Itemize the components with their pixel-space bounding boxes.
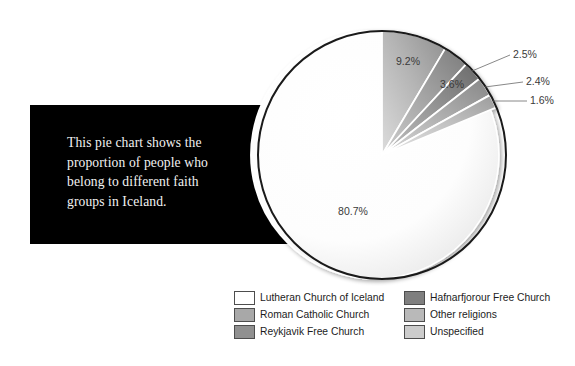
pie-label-1-6: 1.6%	[530, 94, 554, 106]
legend-swatch-icon	[404, 291, 425, 305]
pie-slice-hafnarfjorour-free-church	[382, 64, 479, 155]
legend-item-label: Reykjavik Free Church	[260, 325, 364, 339]
legend-item-label: Hafnarfjorour Free Church	[430, 291, 550, 305]
legend-item-label: Unspecified	[430, 325, 484, 339]
pie-chart-figure: This pie chart shows the proportion of p…	[0, 0, 575, 366]
legend-item-label: Lutheran Church of Iceland	[260, 291, 384, 305]
legend-item-reykjavik-free-church: Reykjavik Free Church	[234, 324, 404, 340]
legend-item-lutheran-church-of-iceland: Lutheran Church of Iceland	[234, 290, 404, 306]
legend-swatch-icon	[234, 308, 255, 322]
pie-slice-reykjavik-free-church	[382, 48, 466, 155]
legend-swatch-icon	[404, 325, 425, 339]
pie-slice-unspecified	[382, 95, 496, 155]
legend-swatch-icon	[404, 308, 425, 322]
legend-item-unspecified: Unspecified	[404, 324, 554, 340]
legend-item-hafnarfjorour-free-church: Hafnarfjorour Free Church	[404, 290, 554, 306]
pie-label-9-2: 9.2%	[396, 55, 420, 67]
chart-legend: Lutheran Church of Iceland Hafnarfjorour…	[234, 290, 554, 340]
legend-item-label: Other religions	[430, 308, 497, 322]
pie-label-3-6: 3.6%	[440, 78, 464, 90]
pie-slice-roman-catholic-church	[382, 31, 445, 155]
pie-label-2-4: 2.4%	[526, 75, 550, 87]
legend-swatch-icon	[234, 291, 255, 305]
leader-line-2-4	[485, 82, 523, 87]
pie-label-2-5: 2.5%	[513, 48, 537, 60]
legend-item-label: Roman Catholic Church	[260, 308, 369, 322]
legend-swatch-icon	[234, 325, 255, 339]
caption-text: This pie chart shows the proportion of p…	[67, 133, 277, 211]
pie-slice-other-religions	[382, 79, 490, 155]
legend-item-other-religions: Other religions	[404, 307, 554, 323]
legend-item-roman-catholic-church: Roman Catholic Church	[234, 307, 404, 323]
pie-label-80-7: 80.7%	[338, 205, 368, 217]
pie-leader-lines	[472, 55, 527, 101]
caption-panel: This pie chart shows the proportion of p…	[30, 105, 302, 244]
leader-line-2-5	[472, 55, 510, 71]
